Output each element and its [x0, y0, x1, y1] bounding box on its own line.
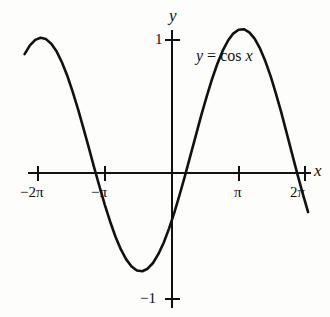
x-tick-label-pi: π — [234, 185, 242, 200]
equation-function: cos — [220, 47, 241, 64]
y-tick-label-1: 1 — [155, 32, 163, 47]
equation-annotation: y = cos x — [196, 48, 253, 64]
cosine-graph-figure: y x −2π −π π 2π 1 −1 y = cos x — [0, 0, 330, 317]
equation-arg-var: x — [245, 47, 252, 64]
x-axis-label: x — [314, 162, 322, 179]
x-tick-label-2pi: 2π — [290, 185, 305, 200]
x-tick-label--pi: −π — [91, 185, 107, 200]
x-tick-label--2pi: −2π — [20, 185, 44, 200]
y-axis-label: y — [169, 7, 177, 24]
y-tick-label--1: −1 — [140, 291, 156, 306]
cosine-curve — [25, 29, 309, 271]
equation-equals: = — [203, 47, 220, 64]
plot-canvas — [0, 0, 330, 317]
